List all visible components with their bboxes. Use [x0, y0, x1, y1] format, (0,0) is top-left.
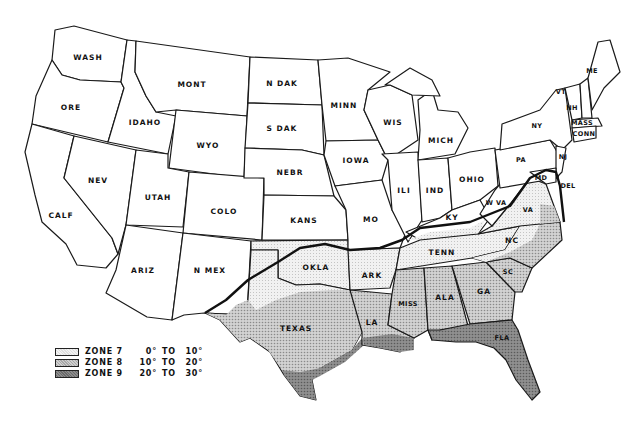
svg-text:TENN: TENN — [429, 248, 456, 257]
svg-text:NJ: NJ — [559, 153, 568, 161]
state-wash: WASH — [52, 26, 127, 82]
svg-text:NH: NH — [566, 104, 578, 112]
svg-text:MASS: MASS — [571, 119, 593, 127]
svg-text:NEBR: NEBR — [277, 168, 304, 177]
state-ndak: N DAK — [248, 57, 322, 105]
svg-text:N DAK: N DAK — [266, 79, 298, 88]
zone8-swatch — [55, 359, 79, 367]
state-del: DEL — [560, 182, 575, 190]
svg-text:KY: KY — [445, 213, 458, 222]
state-colo: COLO — [183, 172, 264, 240]
svg-text:OKLA: OKLA — [303, 263, 330, 272]
svg-text:MISS: MISS — [398, 300, 418, 308]
svg-text:N MEX: N MEX — [194, 266, 226, 275]
svg-text:ILI: ILI — [397, 186, 410, 195]
svg-text:ALA: ALA — [435, 293, 454, 302]
svg-text:CONN: CONN — [573, 130, 596, 138]
svg-text:ME: ME — [586, 67, 598, 75]
svg-text:NY: NY — [532, 122, 543, 130]
svg-text:ORE: ORE — [61, 103, 81, 112]
svg-text:UTAH: UTAH — [145, 193, 172, 202]
state-me: ME — [586, 40, 620, 110]
zone7-swatch — [55, 348, 79, 356]
svg-text:LA: LA — [366, 318, 379, 327]
zone9-swatch — [55, 370, 79, 378]
svg-text:KANS: KANS — [290, 216, 317, 225]
state-iowa: IOWA — [324, 140, 388, 186]
svg-text:IOWA: IOWA — [343, 156, 370, 165]
svg-text:MICH: MICH — [428, 136, 454, 145]
svg-text:VA: VA — [523, 206, 533, 214]
svg-text:ARK: ARK — [362, 271, 383, 280]
state-conn: CONN — [572, 126, 596, 142]
legend-item-zone8: ZONE 8 10° TO 20° — [55, 357, 203, 368]
svg-text:WASH: WASH — [73, 53, 102, 62]
svg-text:NEV: NEV — [88, 176, 108, 185]
svg-text:CALF: CALF — [48, 211, 73, 220]
svg-text:W VA: W VA — [486, 199, 507, 207]
svg-text:MINN: MINN — [331, 101, 358, 110]
legend-item-zone7: ZONE 7 0° TO 10° — [55, 346, 203, 357]
svg-text:MONT: MONT — [177, 80, 206, 89]
state-miss: MISS — [388, 268, 428, 338]
svg-text:OHIO: OHIO — [459, 175, 485, 184]
state-ark: ARK — [348, 248, 400, 290]
svg-text:IND: IND — [426, 186, 444, 195]
svg-text:VT: VT — [556, 88, 566, 96]
svg-text:MO: MO — [363, 215, 379, 224]
svg-text:GA: GA — [477, 287, 491, 296]
state-sdak: S DAK — [245, 103, 324, 155]
svg-text:NC: NC — [505, 236, 519, 245]
svg-text:S DAK: S DAK — [267, 124, 298, 133]
svg-text:ARIZ: ARIZ — [131, 266, 155, 275]
svg-text:FLA: FLA — [495, 334, 510, 342]
svg-text:DEL: DEL — [560, 182, 575, 190]
svg-text:IDAHO: IDAHO — [129, 118, 161, 127]
state-nj: NJ — [556, 146, 567, 178]
state-mont: MONT — [135, 41, 250, 116]
svg-text:WIS: WIS — [383, 118, 402, 127]
svg-text:SC: SC — [503, 268, 513, 276]
svg-text:WYO: WYO — [197, 141, 220, 150]
state-fla: FLA — [428, 320, 540, 400]
legend: ZONE 7 0° TO 10° ZONE 8 10° TO 20° ZONE … — [55, 346, 203, 379]
svg-text:COLO: COLO — [211, 207, 238, 216]
state-kans: KANS — [262, 195, 348, 240]
legend-item-zone9: ZONE 9 20° TO 30° — [55, 368, 203, 379]
svg-text:TEXAS: TEXAS — [280, 324, 312, 333]
state-wyo: WYO — [169, 110, 247, 178]
state-ny: NY — [500, 88, 572, 150]
svg-text:PA: PA — [516, 156, 526, 164]
